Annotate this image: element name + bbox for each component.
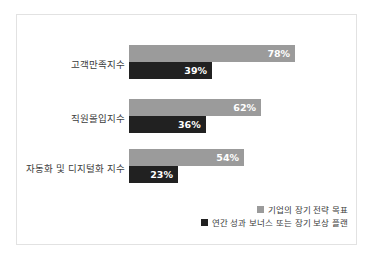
bar: 62% [129,99,261,116]
bar-value-label: 23% [150,166,173,183]
category-group: 직원몰입지수62%36% [17,99,358,133]
legend-swatch-icon [257,206,264,213]
category-label: 자동화 및 디지털화 지수 [17,163,125,174]
chart-title [17,2,358,14]
chart-legend: 기업의 장기 전략 목표연간 성과 보너스 또는 장기 보상 플랜 [201,204,348,230]
bar: 36% [129,116,206,133]
bar-row: 54% [129,149,342,166]
category-label: 고객만족지수 [17,59,125,70]
bar-row: 36% [129,116,342,133]
legend-item: 기업의 장기 전략 목표 [201,204,348,217]
bar-value-label: 62% [233,99,256,116]
legend-swatch-icon [201,219,208,226]
category-label: 직원몰입지수 [17,113,125,124]
legend-label: 연간 성과 보너스 또는 장기 보상 플랜 [212,218,348,228]
bar: 39% [129,62,212,79]
bar-value-label: 54% [216,149,239,166]
bar-value-label: 39% [184,62,207,79]
legend-label: 기업의 장기 전략 목표 [268,205,348,215]
bar-row: 23% [129,166,342,183]
bar-row: 39% [129,62,342,79]
bar: 78% [129,45,295,62]
category-group: 고객만족지수78%39% [17,45,358,79]
bar-row: 62% [129,99,342,116]
bar: 23% [129,166,178,183]
bar-row: 78% [129,45,342,62]
bar: 54% [129,149,244,166]
bar-value-label: 78% [267,45,290,62]
category-group: 자동화 및 디지털화 지수54%23% [17,149,358,183]
legend-item: 연간 성과 보너스 또는 장기 보상 플랜 [201,217,348,230]
chart-card: 고객만족지수78%39%직원몰입지수62%36%자동화 및 디지털화 지수54%… [16,14,357,245]
bar-value-label: 36% [178,116,201,133]
